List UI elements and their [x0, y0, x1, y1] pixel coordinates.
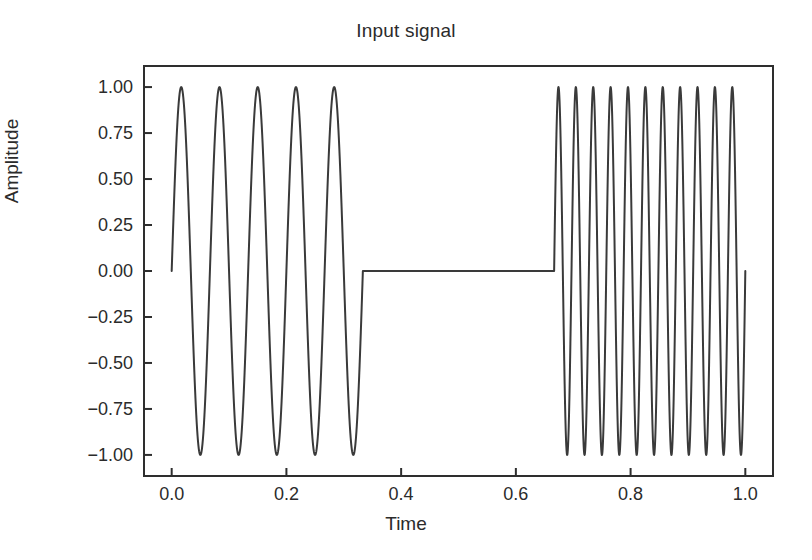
y-tick-label: 0.75 — [53, 123, 133, 144]
y-tick-label: 1.00 — [53, 77, 133, 98]
y-tick-label: −1.00 — [53, 444, 133, 465]
y-tick-label: −0.50 — [53, 352, 133, 373]
y-tick-label: 0.50 — [53, 169, 133, 190]
y-tick-label: 0.25 — [53, 215, 133, 236]
y-tick-label: −0.75 — [53, 398, 133, 419]
x-tick-label: 0.4 — [366, 484, 436, 505]
y-axis-tick-labels: 1.000.750.500.250.00−0.25−0.50−0.75−1.00 — [45, 65, 133, 477]
y-axis-label: Amplitude — [1, 41, 23, 281]
chart-figure: Input signal Amplitude 1.000.750.500.250… — [0, 0, 812, 560]
chart-title: Input signal — [0, 20, 812, 42]
x-tick-label: 0.0 — [137, 484, 207, 505]
y-tick-label: 0.00 — [53, 261, 133, 282]
x-axis-tick-labels: 0.00.20.40.60.81.0 — [143, 484, 774, 514]
x-tick-label: 0.6 — [481, 484, 551, 505]
x-tick-label: 0.2 — [251, 484, 321, 505]
x-axis-label: Time — [0, 513, 812, 535]
signal-plot-svg — [143, 65, 774, 477]
x-tick-label: 1.0 — [710, 484, 780, 505]
plot-area — [143, 65, 774, 477]
y-tick-label: −0.25 — [53, 306, 133, 327]
x-tick-label: 0.8 — [596, 484, 666, 505]
